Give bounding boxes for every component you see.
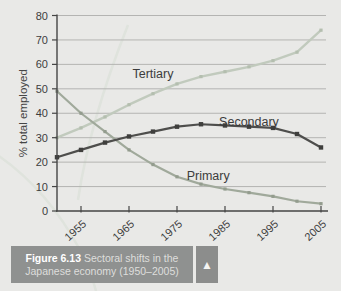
marker-secondary-1980 xyxy=(199,122,203,126)
marker-tertiary-1955 xyxy=(79,126,82,129)
marker-secondary-1970 xyxy=(151,129,155,133)
marker-primary-1965 xyxy=(127,148,130,151)
marker-tertiary-1985 xyxy=(223,70,226,73)
y-tick-10: 10 xyxy=(36,181,48,193)
marker-primary-1985 xyxy=(223,187,226,190)
marker-secondary-1960 xyxy=(103,140,107,144)
y-tick-0: 0 xyxy=(42,205,48,217)
y-tick-60: 60 xyxy=(36,58,48,70)
y-tick-70: 70 xyxy=(36,34,48,46)
marker-primary-1975 xyxy=(175,175,178,178)
marker-secondary-2000 xyxy=(295,132,299,136)
marker-tertiary-1975 xyxy=(175,82,178,85)
marker-tertiary-1990 xyxy=(247,65,250,68)
caption-text-1: Sectoral shifts in the xyxy=(81,252,178,264)
marker-tertiary-1995 xyxy=(271,59,274,62)
marker-tertiary-1980 xyxy=(199,75,202,78)
x-tick-1965: 1965 xyxy=(110,218,136,243)
marker-tertiary-2000 xyxy=(295,51,298,54)
figure-page: 0102030405060708019551965197519851995200… xyxy=(0,0,341,291)
marker-secondary-2005 xyxy=(319,145,323,149)
marker-secondary-1975 xyxy=(175,124,179,128)
x-tick-1995: 1995 xyxy=(254,218,280,243)
marker-primary-1990 xyxy=(247,191,250,194)
triangle-up-icon: ▲ xyxy=(201,258,213,272)
marker-tertiary-1965 xyxy=(127,103,130,106)
marker-primary-2000 xyxy=(295,200,298,203)
figure-arrow-button[interactable]: ▲ xyxy=(196,246,218,283)
x-tick-1985: 1985 xyxy=(206,218,232,243)
marker-primary-1960 xyxy=(103,130,106,133)
series-secondary xyxy=(55,122,323,159)
figure-caption-bar: Figure 6.13 Sectoral shifts in the Japan… xyxy=(11,246,218,283)
series-label-tertiary: Tertiary xyxy=(133,67,175,81)
y-axis-title: % total employed xyxy=(17,69,29,157)
caption-line-2: Japanese economy (1950–2005) xyxy=(15,265,189,278)
marker-tertiary-1970 xyxy=(151,92,154,95)
x-tick-2005: 2005 xyxy=(302,218,328,243)
marker-secondary-1955 xyxy=(79,148,83,152)
marker-primary-2005 xyxy=(319,202,322,205)
y-axis-tick-labels: 01020304050607080 xyxy=(36,10,48,218)
y-tick-20: 20 xyxy=(36,156,48,168)
y-tick-30: 30 xyxy=(36,132,48,144)
marker-primary-1980 xyxy=(199,183,202,186)
series-label-secondary: Secondary xyxy=(219,115,280,129)
marker-secondary-1965 xyxy=(127,134,131,138)
marker-tertiary-2005 xyxy=(319,29,322,32)
marker-primary-1970 xyxy=(151,163,154,166)
figure-number: Figure 6.13 xyxy=(26,252,81,264)
series-primary xyxy=(55,90,322,206)
x-tick-1975: 1975 xyxy=(158,218,184,243)
gridlines xyxy=(57,16,326,187)
series-label-primary: Primary xyxy=(187,169,231,183)
marker-tertiary-1960 xyxy=(103,115,106,118)
marker-primary-1955 xyxy=(79,112,82,115)
y-tick-50: 50 xyxy=(36,83,48,95)
marker-primary-1995 xyxy=(271,195,274,198)
caption-line-1: Figure 6.13 Sectoral shifts in the xyxy=(15,252,189,265)
y-tick-80: 80 xyxy=(36,10,48,22)
x-axis-tick-labels: 195519651975198519952005 xyxy=(62,218,328,243)
figure-caption: Figure 6.13 Sectoral shifts in the Japan… xyxy=(11,246,193,283)
y-tick-40: 40 xyxy=(36,107,48,119)
